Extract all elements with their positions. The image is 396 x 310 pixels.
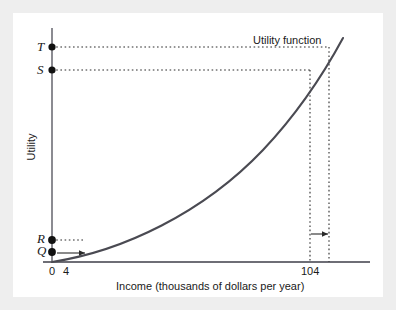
- point-t-dot: [48, 43, 55, 50]
- point-s-label: S: [37, 62, 44, 78]
- x-tick-104: 104: [301, 265, 319, 277]
- point-r-dot: [48, 236, 56, 244]
- x-tick-4: 4: [63, 265, 69, 277]
- figure-panel: T S R Q 0 4 104 Utility function Income …: [13, 13, 383, 297]
- x-tick-0: 0: [49, 265, 55, 277]
- point-s-dot: [48, 66, 55, 73]
- point-t-label: T: [37, 39, 44, 55]
- low-income-arrow-icon: [57, 250, 85, 256]
- utility-function-chart: [13, 13, 383, 297]
- x-axis-title: Income (thousands of dollars per year): [116, 280, 304, 292]
- point-q-dot: [48, 248, 56, 256]
- point-q-label: Q: [37, 243, 46, 259]
- y-axis-title: Utility: [25, 117, 37, 177]
- high-income-arrow-icon: [311, 231, 328, 237]
- utility-function-label: Utility function: [253, 34, 321, 46]
- utility-curve: [52, 38, 343, 262]
